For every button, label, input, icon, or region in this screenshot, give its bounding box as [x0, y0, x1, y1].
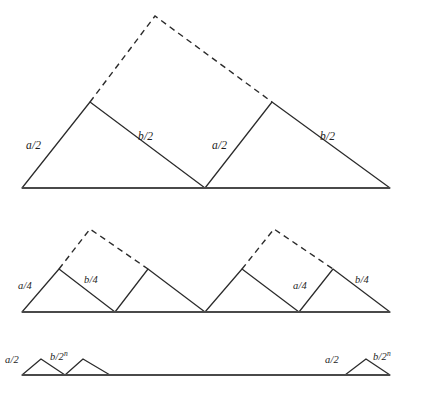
row-2-dashed-apex-left: [59, 229, 148, 269]
row-1-dashed-apex: [90, 16, 272, 102]
row-2-solid-outline: [22, 269, 390, 312]
label-row2-b-right: b/4: [355, 275, 369, 286]
row-2-dashed-apex-right: [242, 229, 333, 269]
geometry-figure: a/2 b/2 a/2 b/2 a/4 b/4 a/4 b/4 a/2 b/2n…: [0, 0, 421, 403]
label-row3-a-right: a/2: [325, 355, 339, 366]
row-1-group: [22, 16, 390, 188]
label-row3-b-right: b/2n: [373, 352, 391, 363]
figure-canvas: [0, 0, 421, 403]
row-1-solid-outline: [22, 102, 390, 188]
label-row1-b-right: b/2: [320, 131, 335, 143]
label-row1-b-left: b/2: [138, 131, 153, 143]
label-row2-a-left: a/4: [18, 281, 32, 292]
label-row1-a-right: a/2: [212, 140, 227, 152]
label-row3-b-left: b/2n: [50, 352, 68, 363]
label-row1-a-left: a/2: [26, 140, 41, 152]
label-row3-a-left: a/2: [5, 355, 19, 366]
label-row2-b-left: b/4: [84, 275, 98, 286]
row-2-group: [22, 229, 390, 312]
label-row2-a-right: a/4: [293, 281, 307, 292]
